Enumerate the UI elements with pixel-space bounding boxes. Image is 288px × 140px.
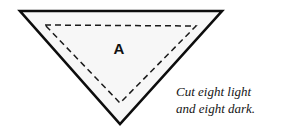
triangle-diagram xyxy=(0,0,288,140)
instruction-line-1: Cut eight light xyxy=(176,84,284,101)
pattern-figure: A Cut eight light and eight dark. xyxy=(0,0,288,140)
cutting-instructions: Cut eight light and eight dark. xyxy=(176,84,284,117)
instruction-line-2: and eight dark. xyxy=(176,101,284,118)
piece-letter-label: A xyxy=(104,40,134,57)
